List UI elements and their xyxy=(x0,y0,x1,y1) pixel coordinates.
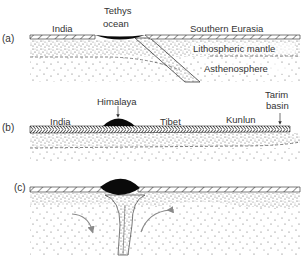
label-tibet: Tibet xyxy=(160,116,181,127)
lithospheric-mantle-layer-b xyxy=(30,133,300,148)
eurasian-crust-c xyxy=(138,187,300,192)
panel-label-a: (a) xyxy=(2,33,14,44)
label-india-b: India xyxy=(50,116,71,127)
eurasian-crust-a xyxy=(145,35,300,39)
indian-crust-c xyxy=(30,187,112,192)
label-tethys: Tethys xyxy=(104,5,132,16)
label-asthenosphere: Asthenosphere xyxy=(204,63,268,74)
panel-b: (b) India Himalaya Tibet Kunlun Tarim ba… xyxy=(2,89,300,162)
label-lithospheric-mantle: Lithospheric mantle xyxy=(193,43,275,54)
asthenosphere-layer-c xyxy=(30,205,300,255)
label-india-a: India xyxy=(52,23,73,34)
label-ocean: ocean xyxy=(103,18,129,29)
indian-crust-a xyxy=(30,35,95,39)
label-kunlun: Kunlun xyxy=(226,114,256,125)
label-basin: basin xyxy=(266,100,289,111)
panel-a: (a) India Tethys ocean Southern Eurasia … xyxy=(2,5,300,82)
panel-label-c: (c) xyxy=(14,182,26,193)
label-himalaya: Himalaya xyxy=(97,96,137,107)
thickened-crust-b xyxy=(30,126,290,133)
label-southern-eurasia: Southern Eurasia xyxy=(190,23,264,34)
asthenosphere-layer-b xyxy=(30,148,300,162)
panel-label-b: (b) xyxy=(2,122,14,133)
himalaya-mass-c xyxy=(100,179,140,195)
himalaya-mass xyxy=(103,119,135,127)
tectonic-collision-diagram: (a) India Tethys ocean Southern Eurasia … xyxy=(0,0,307,269)
panel-c: (c) xyxy=(14,179,300,255)
label-tarim: Tarim xyxy=(265,89,288,100)
